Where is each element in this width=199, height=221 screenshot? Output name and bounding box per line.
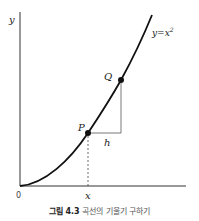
figure-caption-text: 곡선의 기울기 구하기 [82,207,150,216]
slope-diagram: y 0 x P Q h y=x2 [0,0,199,221]
curve-equation-base: y=x [151,28,170,38]
curve-y-equals-x-squared [20,15,152,186]
point-q-label: Q [104,71,112,82]
y-axis-label: y [8,14,15,25]
increment-h-label: h [104,137,110,148]
origin-label: 0 [16,191,21,200]
figure-caption: 그림 4.3 곡선의 기울기 구하기 [0,205,199,216]
point-q [118,77,124,83]
figure-number: 그림 4.3 [49,207,80,216]
curve-equation-label: y=x2 [151,26,174,38]
point-p-label: P [77,122,85,133]
point-p [85,130,91,136]
curve-equation-exponent: 2 [169,26,174,33]
x-axis-label: x [85,190,91,201]
